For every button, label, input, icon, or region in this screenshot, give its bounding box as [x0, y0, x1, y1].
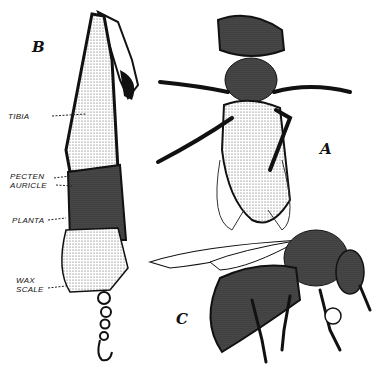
bee-ventral-drawing [158, 16, 350, 230]
figure-label-b: B [32, 38, 45, 56]
hind-leg-drawing [48, 12, 138, 360]
label-planta: PLANTA [12, 216, 44, 225]
figure-label-c: C [176, 310, 188, 328]
label-tibia: TIBIA [8, 112, 30, 121]
label-wax: WAX [16, 276, 35, 285]
label-scale: SCALE [16, 285, 44, 294]
bee-side-drawing [150, 230, 370, 362]
illustration [0, 0, 378, 378]
figure-label-a: A [320, 140, 332, 158]
label-auricle: AURICLE [10, 181, 47, 190]
label-pecten: PECTEN [10, 172, 44, 181]
